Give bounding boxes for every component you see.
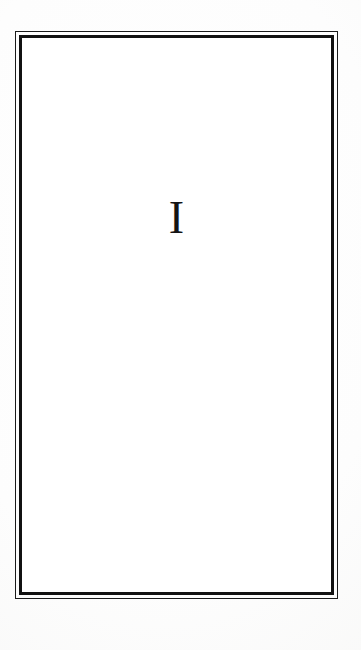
- part-numeral: I: [22, 38, 331, 241]
- scanned-page: I: [0, 0, 361, 650]
- page-frame-content-area: I: [22, 38, 331, 592]
